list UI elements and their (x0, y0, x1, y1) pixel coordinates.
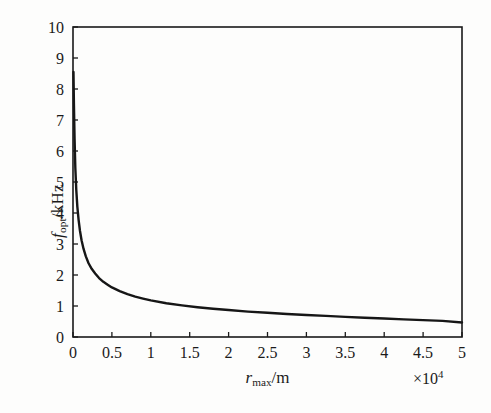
x-tick-label: 4 (380, 344, 388, 361)
figure-container: 00.511.522.533.544.55012345678910 fopt/k… (0, 0, 491, 413)
x-axis-subscript: max (252, 376, 271, 388)
x-axis-multiplier: ×104 (413, 368, 443, 388)
y-tick-label: 0 (56, 329, 64, 346)
y-tick-label: 9 (56, 50, 64, 67)
y-tick-label: 10 (48, 19, 64, 36)
multiplier-base: 10 (422, 370, 438, 387)
x-tick-label: 5 (458, 344, 466, 361)
multiplier-times-sign: × (413, 370, 422, 387)
x-tick-label: 2 (225, 344, 233, 361)
x-tick-label: 1 (147, 344, 155, 361)
y-tick-label: 2 (56, 267, 64, 284)
x-tick-label: 1.5 (180, 344, 200, 361)
y-axis-unit: /kHz (48, 184, 67, 218)
y-axis-symbol: f (48, 233, 67, 238)
data-curve (73, 72, 462, 322)
x-tick-label: 0 (69, 344, 77, 361)
y-tick-label: 1 (56, 298, 64, 315)
y-axis-label-wrapper: fopt/kHz (18, 120, 58, 240)
x-tick-label: 3 (302, 344, 310, 361)
x-tick-label: 2.5 (258, 344, 278, 361)
y-tick-label: 8 (56, 81, 64, 98)
x-axis-unit: /m (272, 368, 290, 387)
plot-frame (73, 27, 462, 337)
y-axis-subscript: opt (56, 218, 68, 233)
multiplier-exponent: 4 (438, 368, 443, 380)
x-tick-label: 0.5 (102, 344, 122, 361)
x-tick-label: 3.5 (335, 344, 355, 361)
x-tick-label: 4.5 (413, 344, 433, 361)
plot-area: 00.511.522.533.544.55012345678910 (0, 0, 491, 413)
y-axis-label: fopt/kHz (48, 184, 68, 238)
